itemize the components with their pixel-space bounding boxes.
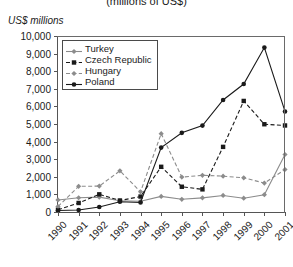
x-axis-tick-label: 1995 (148, 219, 172, 243)
y-axis-tick (54, 54, 58, 55)
y-axis-tick (54, 177, 58, 178)
chart-container: (millions of US$) US$ millions 10,0009,0… (0, 0, 293, 267)
x-axis-tick-label: 1999 (231, 219, 255, 243)
y-axis-tick-label: 4,000 (26, 136, 51, 147)
x-axis-tick (285, 212, 286, 216)
y-axis-tick-label: 3,000 (26, 154, 51, 165)
y-axis-tick (54, 36, 58, 37)
y-axis-tick-label: 9,000 (26, 48, 51, 59)
legend-label: Turkey (85, 43, 114, 54)
x-axis-tick-label: 1993 (107, 219, 131, 243)
legend-marker-square-icon (66, 54, 82, 65)
x-axis-tick-label: 1997 (190, 219, 214, 243)
legend-label: Czech Republic (85, 54, 152, 65)
y-axis-tick (54, 142, 58, 143)
legend-label: Hungary (85, 65, 121, 76)
series-turkey (55, 152, 287, 204)
y-axis-tick-label: 5,000 (26, 119, 51, 130)
y-axis-tick-label: 10,000 (20, 31, 51, 42)
x-axis-tick-label: 2000 (252, 219, 276, 243)
y-axis-tick (54, 71, 58, 72)
y-axis-tick-label: 6,000 (26, 101, 51, 112)
x-axis-tick-label: 1996 (169, 219, 193, 243)
x-axis-tick (202, 212, 203, 216)
y-axis-tick (54, 159, 58, 160)
legend-label: Poland (85, 76, 115, 87)
y-axis-tick-label: 7,000 (26, 83, 51, 94)
y-axis-label: US$ millions (8, 15, 64, 26)
y-axis-tick-label: 0 (45, 207, 51, 218)
y-axis-tick (54, 106, 58, 107)
x-axis-tick-label: 2001 (272, 219, 293, 243)
x-axis-tick (244, 212, 245, 216)
legend-item-turkey[interactable]: Turkey (66, 43, 152, 54)
x-axis-tick (161, 212, 162, 216)
x-axis-tick-label: 1994 (128, 219, 152, 243)
legend-item-hungary[interactable]: Hungary (66, 65, 152, 76)
x-axis-tick (264, 212, 265, 216)
y-axis-tick (54, 194, 58, 195)
x-axis-tick (58, 212, 59, 216)
legend-marker-diamond-icon (66, 43, 82, 54)
legend-item-poland[interactable]: Poland (66, 76, 152, 87)
y-axis-tick (54, 124, 58, 125)
y-axis-tick-label: 2,000 (26, 171, 51, 182)
chart-title: (millions of US$) (0, 0, 293, 7)
x-axis-tick-label: 1998 (210, 219, 234, 243)
x-axis-tick (99, 212, 100, 216)
legend-marker-diamond-icon (66, 65, 82, 76)
y-axis-tick (54, 89, 58, 90)
y-axis-tick-label: 1,000 (26, 189, 51, 200)
x-axis-tick-label: 1991 (66, 219, 90, 243)
legend-item-czech-republic[interactable]: Czech Republic (66, 54, 152, 65)
x-axis-tick (79, 212, 80, 216)
chart-legend: TurkeyCzech RepublicHungaryPoland (62, 40, 158, 90)
x-axis-tick (182, 212, 183, 216)
legend-marker-circle-icon (66, 76, 82, 87)
x-axis-tick-label: 1992 (87, 219, 111, 243)
series-czech-republic (56, 99, 287, 212)
x-axis-tick (141, 212, 142, 216)
y-axis-tick-label: 8,000 (26, 66, 51, 77)
x-axis-tick-label: 1990 (45, 219, 69, 243)
x-axis-tick (223, 212, 224, 216)
x-axis-tick (120, 212, 121, 216)
